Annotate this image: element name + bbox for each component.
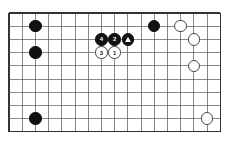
white-stone-n8[interactable] [174,20,186,32]
black-stone-c6[interactable] [29,46,41,58]
move-number-label: 4 [100,36,103,42]
move-number-label: 2 [113,36,116,42]
white-stone-1[interactable]: 1 [108,46,120,58]
black-stone-2[interactable]: 2 [108,33,120,45]
black-stone-c8[interactable] [29,20,41,32]
go-board-diagram: 4231 [0,0,240,142]
triangle-mark-icon [125,37,131,42]
white-stone-p1[interactable] [201,112,213,124]
black-stone-l8[interactable] [148,20,160,32]
white-stone-o7[interactable] [188,33,200,45]
black-stone-b1[interactable] [29,112,41,124]
move-number-label: 3 [100,50,103,56]
black-stone-4[interactable]: 4 [95,33,107,45]
move-number-label: 1 [113,50,116,56]
black-stone-tri[interactable] [122,33,134,45]
white-stone-o5[interactable] [188,60,200,72]
stone-layer: 4231 [0,0,240,142]
white-stone-3[interactable]: 3 [95,46,107,58]
